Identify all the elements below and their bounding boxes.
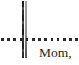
double-rule-dark-line (22, 1, 24, 58)
dotted-leader-line (0, 38, 79, 41)
scanned-document-fragment: Mom, (0, 0, 79, 65)
signature-text: Mom, (39, 45, 72, 61)
double-rule-light-line (25, 1, 27, 58)
